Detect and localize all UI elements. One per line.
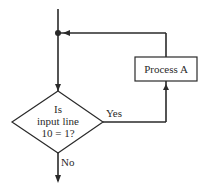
arrow-down-icon (55, 84, 61, 91)
process-label: Process A (144, 63, 188, 75)
flowchart: Is input line 10 = 1? Process A Yes No (0, 0, 209, 191)
arrow-left-icon (63, 30, 70, 36)
decision-label-line1: Is (54, 103, 62, 115)
junction-dot (55, 30, 61, 36)
decision-label-line2: input line (37, 115, 79, 127)
no-label: No (61, 156, 75, 168)
decision-label-line3: 10 = 1? (41, 127, 74, 139)
arrow-down-exit-icon (55, 175, 61, 183)
yes-label: Yes (106, 107, 122, 119)
arrow-up-icon (163, 84, 169, 90)
